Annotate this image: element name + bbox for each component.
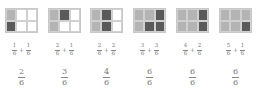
numerator: 3 [141,43,145,49]
addition-expression: 3 6 + 3 6 [133,43,166,57]
denominator: 6 [227,51,231,57]
cell-dark [144,21,154,33]
numerator: 1 [70,43,74,49]
addend-b: 1 6 [26,43,31,57]
denominator: 6 [104,79,109,87]
numerator: 6 [147,68,152,76]
denominator: 6 [13,51,17,57]
numerator: 2 [198,43,202,49]
cell-light [49,21,59,33]
denominator: 6 [241,51,245,57]
cell-light [177,9,187,21]
numerator: 1 [241,43,245,49]
addend-b: 1 6 [240,43,245,57]
cell-empty [27,21,37,33]
cell-light [134,9,144,21]
sum: 6 6 [232,68,239,87]
cell-dark [198,9,208,21]
cell-empty [27,9,37,21]
fraction-grid [5,8,38,33]
fraction-item: 5 6 + 1 6 6 6 [219,0,261,92]
cell-light [177,21,187,33]
sum: 3 6 [61,68,68,87]
addition-expression: 2 6 + 1 6 [48,43,81,57]
cell-dark [241,21,251,33]
addition-expression: 5 6 + 1 6 [219,43,252,57]
cell-light [91,9,101,21]
fraction-item: 4 6 + 2 6 6 6 [176,0,218,92]
addend-a: 4 6 [183,43,188,57]
cell-dark [6,21,16,33]
addend-a: 1 6 [12,43,17,57]
denominator: 6 [184,51,188,57]
denominator: 6 [70,51,74,57]
cell-dark [101,9,111,21]
denominator: 6 [19,79,24,87]
denominator: 6 [56,51,60,57]
addend-b: 2 6 [111,43,116,57]
addend-b: 2 6 [197,43,202,57]
cell-empty [16,9,26,21]
sum: 6 6 [189,68,196,87]
numerator: 4 [184,43,188,49]
cell-light [49,9,59,21]
denominator: 6 [62,79,67,87]
numerator: 2 [19,68,24,76]
numerator: 4 [104,68,109,76]
numerator: 2 [112,43,116,49]
cell-light [220,21,230,33]
denominator: 6 [233,79,238,87]
addition-expression: 2 6 + 2 6 [90,43,123,57]
addition-expression: 4 6 + 2 6 [176,43,209,57]
denominator: 6 [27,51,31,57]
result-fraction: 6 6 [176,68,209,87]
cell-dark [101,21,111,33]
denominator: 6 [190,79,195,87]
cell-empty [112,21,122,33]
addition-expression: 1 6 + 1 6 [5,43,38,57]
cell-light [144,9,154,21]
cell-light [134,21,144,33]
plus-sign: + [62,46,67,53]
cell-light [220,9,230,21]
plus-sign: + [147,46,152,53]
cell-light [187,21,197,33]
fraction-item: 2 6 + 2 6 4 6 [90,0,132,92]
cell-dark [155,9,165,21]
numerator: 3 [155,43,159,49]
denominator: 6 [198,51,202,57]
fraction-grid [219,8,252,33]
denominator: 6 [98,51,102,57]
fraction-item: 2 6 + 1 6 3 6 [48,0,90,92]
plus-sign: + [233,46,238,53]
numerator: 1 [13,43,17,49]
numerator: 1 [27,43,31,49]
cell-empty [70,21,80,33]
numerator: 6 [233,68,238,76]
cell-empty [16,21,26,33]
cell-empty [70,9,80,21]
plus-sign: + [104,46,109,53]
fraction-item: 1 6 + 1 6 2 6 [5,0,47,92]
addend-b: 3 6 [154,43,159,57]
cell-empty [59,21,69,33]
plus-sign: + [19,46,24,53]
cell-light [91,21,101,33]
fraction-grid [90,8,123,33]
cell-dark [59,9,69,21]
cell-dark [198,21,208,33]
cell-empty [112,9,122,21]
numerator: 6 [190,68,195,76]
sum: 2 6 [18,68,25,87]
denominator: 6 [155,51,159,57]
fraction-grid [48,8,81,33]
fraction-grid [133,8,166,33]
cell-light [230,21,240,33]
denominator: 6 [141,51,145,57]
result-fraction: 4 6 [90,68,123,87]
numerator: 3 [62,68,67,76]
denominator: 6 [112,51,116,57]
result-fraction: 6 6 [219,68,252,87]
cell-light [241,9,251,21]
numerator: 2 [98,43,102,49]
